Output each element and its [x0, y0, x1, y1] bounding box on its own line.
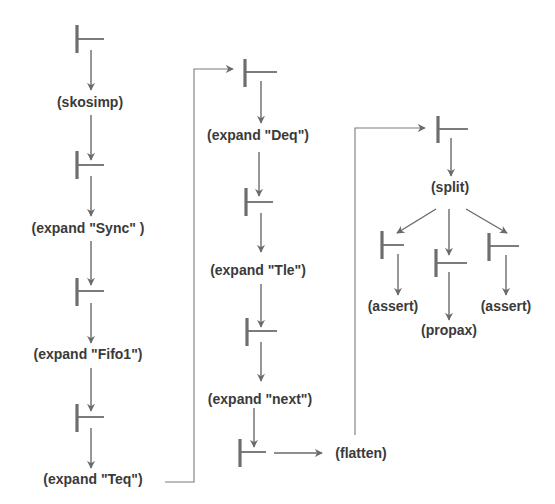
rule-label-expand-tle: (expand "Tle"): [210, 262, 306, 278]
edge-arrow: [397, 209, 436, 233]
rule-label-flatten: (flatten): [335, 445, 386, 461]
rule-label-propax: (propax): [421, 322, 477, 338]
rule-label-assert-left: (assert): [368, 298, 419, 314]
sequent-node-7: [247, 318, 277, 346]
rule-label-skosimp: (skosimp): [57, 94, 123, 110]
proof-tree-diagram: (skosimp) (expand "Sync" ) (expand "Fifo…: [0, 0, 555, 504]
sequent-node-1: [77, 25, 104, 53]
sequent-node-10: [382, 231, 404, 259]
sequent-node-8: [240, 439, 266, 467]
rule-label-expand-fifo1: (expand "Fifo1"): [34, 346, 143, 362]
rule-label-expand-sync: (expand "Sync" ): [32, 220, 145, 236]
sequent-node-12: [489, 233, 519, 261]
rule-label-expand-next: (expand "next"): [208, 391, 312, 407]
rule-label-expand-teq: (expand "Teq"): [43, 471, 142, 487]
sequent-node-11: [436, 249, 467, 277]
edge-arrow: [466, 209, 507, 233]
rule-label-split: (split): [431, 179, 469, 195]
sequent-node-9: [438, 116, 468, 143]
rule-label-expand-deq: (expand "Deq"): [207, 127, 309, 143]
continuation-connector: [355, 128, 425, 435]
rule-label-assert-right: (assert): [481, 298, 532, 314]
